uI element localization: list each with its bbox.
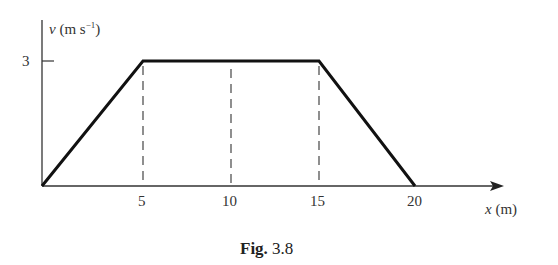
x-axis-label: x (m) bbox=[484, 201, 517, 218]
y-tick-label-3: 3 bbox=[22, 53, 30, 69]
y-axis-label: v (m s−1) bbox=[49, 20, 100, 38]
x-tick-label-5: 5 bbox=[138, 193, 146, 209]
x-tick-label-20: 20 bbox=[407, 193, 422, 209]
velocity-distance-chart: 3 v (m s−1) 5 10 15 20 x (m) Fig. 3.8 bbox=[0, 0, 558, 265]
figure-caption: Fig. 3.8 bbox=[240, 239, 293, 258]
velocity-line bbox=[42, 61, 415, 186]
x-tick-label-10: 10 bbox=[222, 193, 237, 209]
x-tick-label-15: 15 bbox=[310, 193, 325, 209]
